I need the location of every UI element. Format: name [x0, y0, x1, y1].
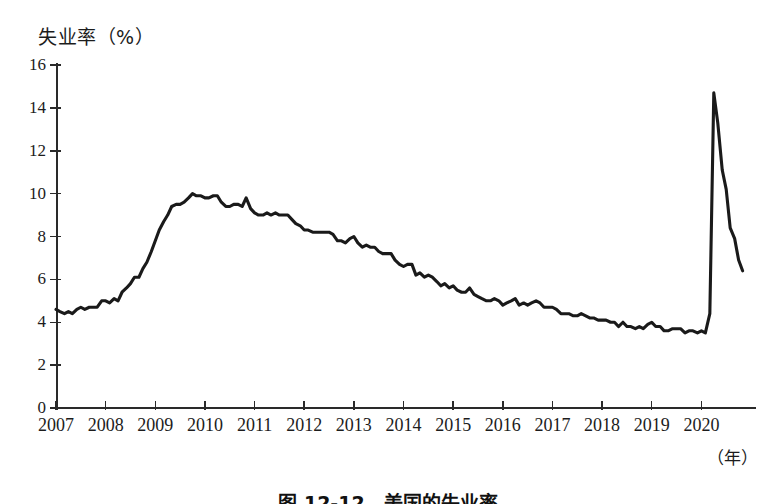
series-line-unemployment: [56, 93, 743, 333]
y-axis-tick-label: 12: [10, 142, 46, 159]
x-axis-tick: [353, 401, 355, 410]
y-axis-tick-label: 6: [10, 270, 46, 287]
y-axis-tick: [50, 64, 61, 66]
x-axis-tick: [403, 401, 405, 410]
figure-caption: 图 12-12 美国的失业率: [0, 488, 776, 504]
x-axis-tick: [254, 401, 256, 410]
y-axis-tick-label: 10: [10, 185, 46, 202]
x-axis-tick: [55, 401, 57, 410]
y-axis-tick: [50, 236, 61, 238]
y-axis-tick: [50, 107, 61, 109]
y-axis-tick: [50, 364, 61, 366]
x-axis-tick-label: 2020: [672, 415, 730, 435]
y-axis-tick-label: 0: [10, 399, 46, 416]
y-axis-tick-label: 14: [10, 99, 46, 116]
y-axis-title: 失业率（%）: [38, 22, 154, 49]
y-axis-tick-label: 16: [10, 56, 46, 73]
figure-root: 失业率（%） 0246810121416 2007200820092010201…: [0, 0, 776, 504]
x-axis-tick: [651, 401, 653, 410]
y-axis-tick: [50, 150, 61, 152]
x-axis-tick: [502, 401, 504, 410]
x-axis-unit-label: （年）: [707, 444, 758, 469]
x-axis-tick: [204, 401, 206, 410]
y-axis-tick: [50, 193, 61, 195]
x-axis-tick: [552, 401, 554, 410]
x-axis-tick: [155, 401, 157, 410]
x-axis-tick: [303, 401, 305, 410]
x-axis-tick: [701, 401, 703, 410]
y-axis-tick: [50, 279, 61, 281]
y-axis-tick-label: 2: [10, 356, 46, 373]
y-axis-tick-label: 8: [10, 228, 46, 245]
x-axis-tick: [601, 401, 603, 410]
x-axis-tick: [105, 401, 107, 410]
x-axis-tick: [452, 401, 454, 410]
y-axis-tick: [50, 322, 61, 324]
y-axis-tick-label: 4: [10, 313, 46, 330]
